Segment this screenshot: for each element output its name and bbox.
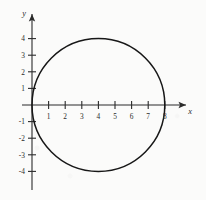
x-tick-label: 3	[80, 112, 84, 121]
y-tick-label: 4	[21, 34, 25, 43]
x-tick-label: 1	[47, 112, 51, 121]
y-tick-label: -1	[19, 117, 25, 126]
x-tick-label: 4	[97, 112, 101, 121]
x-tick-label: 8	[163, 112, 167, 121]
y-tick-label: 1	[21, 84, 25, 93]
x-tick-label: 2	[63, 112, 67, 121]
x-axis-label: x	[187, 107, 192, 116]
x-tick-label: 6	[130, 112, 134, 121]
y-tick-label: -4	[19, 167, 25, 176]
y-tick-label: -2	[19, 134, 25, 143]
y-tick-label: 2	[21, 68, 25, 77]
x-tick-label: 5	[113, 112, 117, 121]
y-axis-label: y	[21, 9, 26, 18]
y-tick-label: 3	[21, 51, 25, 60]
circle-plot-figure: 1 2 3 4 5 6 7 8 1 2 3 4 -1 -2 -3 -4 x y	[0, 0, 206, 200]
plot-canvas: 1 2 3 4 5 6 7 8 1 2 3 4 -1 -2 -3 -4 x y	[0, 0, 206, 200]
y-tick-label: -3	[19, 151, 25, 160]
x-tick-label: 7	[146, 112, 150, 121]
